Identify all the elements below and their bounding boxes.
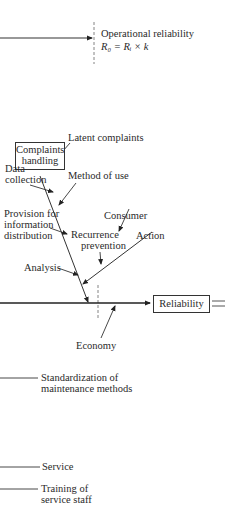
action-label: Action	[136, 230, 165, 241]
analysis-label: Analysis	[24, 262, 61, 273]
recurrence-label-1: Recurrence	[71, 229, 119, 240]
training-label-1: Training of	[41, 483, 88, 494]
data-collection-label-2: collection	[5, 174, 46, 185]
standardization-label-2: maintenance methods	[41, 383, 132, 394]
method-of-use-label: Method of use	[68, 170, 129, 181]
box-line-1: Complaints	[16, 144, 64, 155]
reliability-diagram: Operational reliability R₀ = Rᵢ × k Comp…	[0, 0, 225, 506]
standardization-label-1: Standardization of	[41, 372, 118, 383]
provision-label-1: Provision for	[4, 208, 59, 219]
operational-reliability-label: Operational reliability	[101, 28, 194, 39]
reliability-box: Reliability	[153, 295, 210, 313]
training-label-2: service staff	[41, 494, 92, 505]
data-collection-label-1: Data	[5, 163, 25, 174]
recurrence-label-2: prevention	[81, 240, 126, 251]
latent-complaints-label: Latent complaints	[68, 132, 144, 143]
diagram-lines	[0, 0, 225, 506]
service-label: Service	[42, 461, 74, 472]
provision-label-3: distribution	[4, 230, 52, 241]
reliability-formula: R₀ = Rᵢ × k	[101, 41, 148, 52]
economy-label: Economy	[76, 340, 116, 351]
provision-label-2: information	[4, 219, 54, 230]
consumer-label: Consumer	[104, 210, 147, 221]
